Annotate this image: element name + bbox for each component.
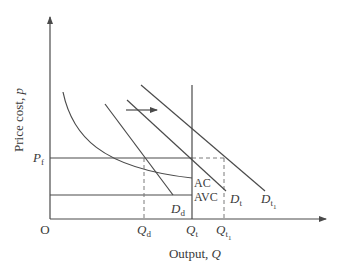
demand-d-line xyxy=(105,104,173,195)
y-axis-label: Price cost, p xyxy=(11,88,26,152)
qd-label: Qd xyxy=(137,222,151,239)
cost-demand-diagram: Price cost, p Output, Q O Pf Qd Qt Qt1 A… xyxy=(0,0,338,272)
origin-label: O xyxy=(40,222,49,237)
ac-label: AC xyxy=(194,176,211,190)
dd-label: Dd xyxy=(170,201,185,218)
x-axis-label: Output, Q xyxy=(169,246,222,261)
qt1-label: Qt1 xyxy=(216,222,232,242)
avc-label: AVC xyxy=(194,190,218,204)
dt1-label: Dt1 xyxy=(260,191,277,211)
pf-label: Pf xyxy=(32,150,44,167)
dt-label: Dt xyxy=(229,191,242,208)
qt-label: Qt xyxy=(186,222,198,239)
